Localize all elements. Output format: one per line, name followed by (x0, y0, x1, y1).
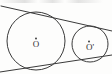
geometry-figure: O O' (0, 0, 112, 74)
lower-tangent-line (0, 55, 112, 72)
figure-canvas: O O' (0, 0, 112, 74)
small-circle-center-label: O' (86, 42, 94, 52)
large-circle-center-label: O (33, 39, 40, 49)
